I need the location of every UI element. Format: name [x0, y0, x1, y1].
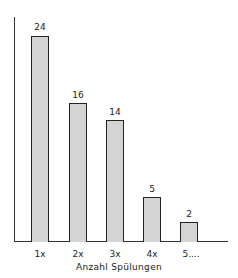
bar-4x [143, 197, 161, 242]
bar-1x [31, 36, 49, 242]
tick-label-5plus: 5.... [176, 249, 206, 259]
tick-label-1x: 1x [25, 249, 55, 259]
tick-label-2x: 2x [63, 249, 93, 259]
value-label-3x: 14 [100, 107, 130, 117]
y-axis [14, 17, 15, 242]
tick-label-3x: 3x [100, 249, 130, 259]
value-label-5plus: 2 [174, 209, 204, 219]
tick-label-4x: 4x [137, 249, 167, 259]
bar-2x [69, 103, 87, 242]
value-label-1x: 24 [25, 22, 55, 32]
value-label-4x: 5 [137, 184, 167, 194]
x-axis-title: Anzahl Spülungen [0, 262, 238, 272]
bar-5plus [180, 222, 198, 242]
bar-3x [106, 120, 124, 242]
value-label-2x: 16 [63, 90, 93, 100]
